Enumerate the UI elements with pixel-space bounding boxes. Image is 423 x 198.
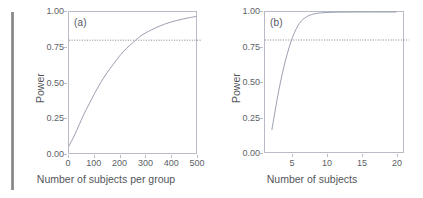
x-tick-mark xyxy=(68,155,69,158)
x-tick-mark xyxy=(292,154,293,157)
y-tick-mark xyxy=(260,153,263,154)
x-tick-label: 10 xyxy=(313,159,341,168)
x-tick-label: 5 xyxy=(278,159,306,168)
x-tick-mark xyxy=(397,154,398,157)
x-tick-mark xyxy=(197,155,198,158)
y-tick-label: 0.00 xyxy=(234,149,260,158)
y-tick-mark xyxy=(64,154,67,155)
y-tick-mark xyxy=(64,11,67,12)
y-tick-mark xyxy=(64,47,67,48)
x-tick-mark xyxy=(327,154,328,157)
plot-canvas-b xyxy=(265,12,403,152)
y-tick-label: 0.50 xyxy=(234,78,260,87)
x-axis-label-b: Number of subjects xyxy=(212,173,412,185)
x-tick-label: 0 xyxy=(54,159,82,168)
y-tick-label: 1.00 xyxy=(234,7,260,16)
x-tick-mark xyxy=(94,155,95,158)
x-tick-label: 200 xyxy=(106,159,134,168)
chart-panel-a: Power 1.00 0.75 0.50 0.25 0.00 (a) 0 100… xyxy=(0,0,212,198)
x-tick-label: 500 xyxy=(183,159,211,168)
y-tick-label: 0.50 xyxy=(38,79,64,88)
x-tick-mark xyxy=(145,155,146,158)
x-tick-label: 300 xyxy=(131,159,159,168)
panel-label-b: (b) xyxy=(270,17,283,28)
y-tick-label: 0.25 xyxy=(234,114,260,123)
y-tick-mark xyxy=(64,83,67,84)
y-tick-mark xyxy=(260,11,263,12)
y-tick-mark xyxy=(64,118,67,119)
x-tick-label: 15 xyxy=(348,159,376,168)
panel-label-a: (a) xyxy=(74,17,87,28)
x-tick-label: 100 xyxy=(80,159,108,168)
plot-area-b xyxy=(264,11,404,153)
y-tick-label: 1.00 xyxy=(38,7,64,16)
chart-panel-b: Power 1.00 0.75 0.50 0.25 0.00 (b) 5 10 … xyxy=(212,0,423,198)
y-tick-mark xyxy=(260,82,263,83)
x-axis-label-a: Number of subjects per group xyxy=(0,173,212,185)
x-tick-label: 400 xyxy=(157,159,185,168)
y-tick-label: 0.25 xyxy=(38,114,64,123)
x-tick-mark xyxy=(171,155,172,158)
y-tick-mark xyxy=(260,47,263,48)
y-tick-label: 0.75 xyxy=(38,43,64,52)
power-analysis-figure: Power 1.00 0.75 0.50 0.25 0.00 (a) 0 100… xyxy=(0,0,423,198)
y-tick-label: 0.75 xyxy=(234,43,260,52)
x-tick-mark xyxy=(120,155,121,158)
x-tick-label: 20 xyxy=(383,159,411,168)
plot-area-a xyxy=(68,11,197,154)
x-tick-mark xyxy=(362,154,363,157)
power-curve xyxy=(69,17,196,146)
power-curve xyxy=(272,12,396,130)
y-tick-mark xyxy=(260,118,263,119)
plot-canvas-a xyxy=(69,12,196,153)
y-tick-label: 0.00 xyxy=(38,150,64,159)
